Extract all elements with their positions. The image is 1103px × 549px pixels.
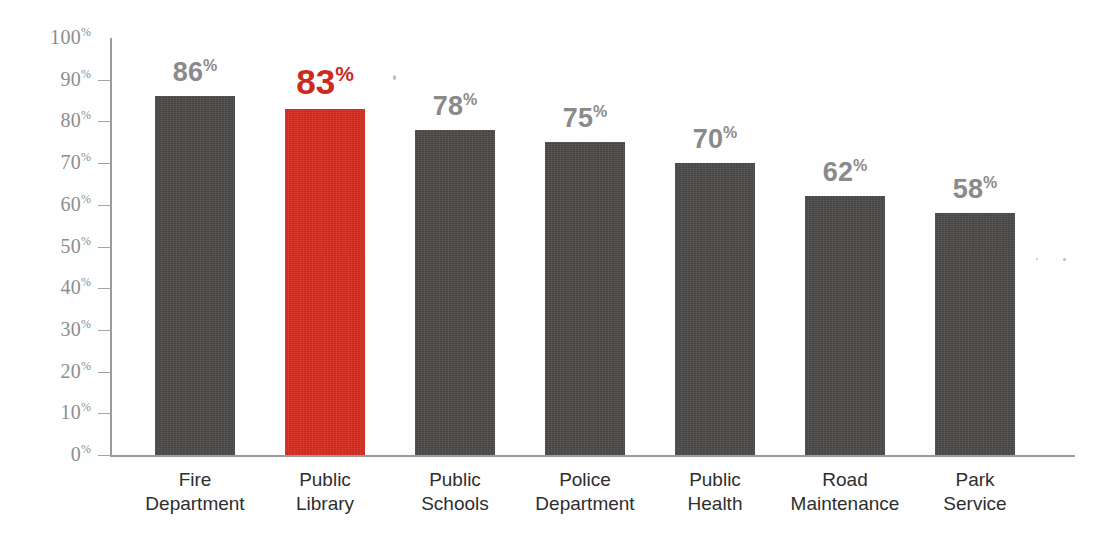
y-axis-tick: [98, 413, 111, 414]
y-axis-tick-label: 0%: [5, 442, 91, 466]
y-axis-tick-label: 100%: [5, 25, 91, 49]
y-axis-tick: [98, 288, 111, 289]
bar-value-label: 78%: [395, 92, 515, 120]
y-axis-tick: [98, 80, 111, 81]
y-axis-tick: [98, 163, 111, 164]
y-axis-tick: [98, 455, 111, 456]
y-axis-tick-label: 40%: [5, 275, 91, 299]
y-axis-tick: [98, 372, 111, 373]
y-axis-tick-label: 90%: [5, 67, 91, 91]
bar: [415, 130, 495, 455]
y-axis-tick-label: 20%: [5, 359, 91, 383]
scan-speck: [1063, 258, 1066, 261]
y-axis-tick-label: 60%: [5, 192, 91, 216]
scan-speck: [393, 75, 396, 80]
x-axis-line: [110, 455, 1075, 457]
bar: [805, 196, 885, 455]
scan-speck: [1036, 258, 1038, 260]
y-axis-tick-label: 10%: [5, 400, 91, 424]
y-axis-tick-label: 30%: [5, 317, 91, 341]
bar: [545, 142, 625, 455]
bar-value-label: 58%: [915, 175, 1035, 203]
y-axis-tick-label: 70%: [5, 150, 91, 174]
bar-value-label: 70%: [655, 125, 775, 153]
y-axis-tick: [98, 205, 111, 206]
y-axis-tick: [98, 121, 111, 122]
bar-value-label: 83%: [265, 63, 385, 99]
y-axis-tick-label: 80%: [5, 108, 91, 132]
bar-value-label: 86%: [135, 58, 255, 86]
bar: [155, 96, 235, 455]
y-axis-tick: [98, 330, 111, 331]
bar-value-label: 62%: [785, 158, 905, 186]
bar: [675, 163, 755, 455]
bar: [935, 213, 1015, 455]
bar-value-label: 75%: [525, 104, 645, 132]
y-axis-tick: [98, 247, 111, 248]
x-axis-category-label: Park Service: [890, 468, 1060, 516]
y-axis-tick-label: 50%: [5, 234, 91, 258]
bar: [285, 109, 365, 455]
bar-chart: 100%90%80%70%60%50%40%30%20%10%0% 86%83%…: [0, 0, 1103, 549]
